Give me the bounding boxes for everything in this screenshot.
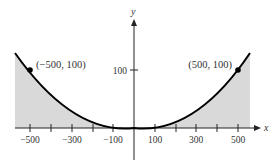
point-left-label: (−500, 100) <box>36 59 86 71</box>
x-axis-label: x <box>263 122 269 133</box>
point-right-label: (500, 100) <box>188 59 232 71</box>
y-axis-arrow-icon <box>131 19 137 26</box>
y-tick-label: 100 <box>113 66 128 76</box>
x-tick-label: −500 <box>20 135 40 145</box>
x-tick-label: 300 <box>189 135 204 145</box>
x-tick-label: −100 <box>103 135 123 145</box>
x-tick-label: −300 <box>62 135 82 145</box>
x-tick-label: 500 <box>231 135 246 145</box>
point-left <box>27 67 33 73</box>
x-tick-label: 100 <box>148 135 163 145</box>
x-axis-arrow-icon <box>254 125 261 131</box>
point-right <box>235 67 241 73</box>
y-axis-label: y <box>130 6 136 17</box>
parabola-figure: x y −500 −300 −100 100 300 500 100 <box>0 0 272 161</box>
